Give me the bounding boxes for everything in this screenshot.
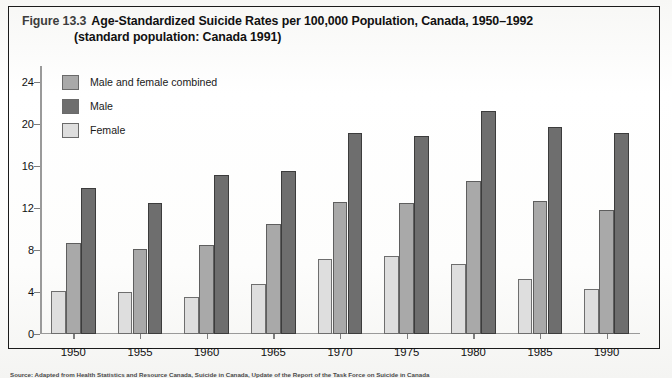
x-tick-label-1985: 1985 [510,346,570,358]
bar-female-1960 [184,297,199,334]
x-tick-1985 [540,334,541,339]
bar-male-1985 [548,127,563,334]
bar-combined-1960 [199,245,214,334]
x-tick-label-1955: 1955 [110,346,170,358]
bar-male-1975 [414,136,429,334]
y-tick-label-20: 20 [8,118,34,130]
source-note: Source: Adapted from Health Statistics a… [10,371,660,378]
x-tick-label-1990: 1990 [577,346,637,358]
y-axis-labels: 04812162024 [4,66,34,334]
y-tick-20 [34,124,40,125]
x-tick-label-1965: 1965 [243,346,303,358]
y-tick-4 [34,292,40,293]
x-tick-1975 [407,334,408,339]
x-tick-1950 [73,334,74,339]
bar-combined-1965 [266,224,281,334]
x-tick-1960 [207,334,208,339]
x-tick-1990 [607,334,608,339]
bar-combined-1970 [333,202,348,334]
bar-female-1965 [251,284,266,334]
bar-combined-1950 [66,243,81,334]
x-tick-1965 [273,334,274,339]
bar-male-1980 [481,111,496,334]
x-tick-label-1960: 1960 [177,346,237,358]
bar-female-1975 [384,256,399,334]
bar-female-1990 [584,289,599,334]
x-tick-1955 [140,334,141,339]
bar-female-1970 [318,259,333,334]
bar-male-1955 [148,203,163,334]
bar-combined-1990 [599,210,614,334]
bar-female-1950 [51,291,66,334]
x-tick-1980 [473,334,474,339]
x-tick-label-1980: 1980 [443,346,503,358]
y-tick-label-4: 4 [8,286,34,298]
y-tick-label-0: 0 [8,328,34,340]
bar-combined-1975 [399,203,414,334]
figure-number: Figure 13.3 [22,14,86,28]
bar-male-1965 [281,171,296,334]
y-tick-0 [34,334,40,335]
y-tick-label-24: 24 [8,76,34,88]
y-tick-label-8: 8 [8,244,34,256]
y-tick-8 [34,250,40,251]
y-tick-label-16: 16 [8,160,34,172]
x-tick-label-1975: 1975 [377,346,437,358]
bar-combined-1980 [466,181,481,334]
y-tick-16 [34,166,40,167]
bar-female-1980 [451,264,466,334]
bar-male-1950 [81,188,96,334]
bar-combined-1955 [133,249,148,334]
figure-title-line-2: (standard population: Canada 1991) [74,30,642,46]
y-axis-line [40,66,42,334]
y-tick-24 [34,82,40,83]
y-tick-12 [34,208,40,209]
bar-male-1990 [614,133,629,334]
y-tick-label-12: 12 [8,202,34,214]
figure-title-line-1: Age-Standardized Suicide Rates per 100,0… [91,14,533,28]
bar-male-1970 [348,133,363,334]
x-tick-1970 [340,334,341,339]
bar-combined-1985 [533,201,548,334]
figure-title: Figure 13.3Age-Standardized Suicide Rate… [22,14,642,45]
bar-male-1960 [214,175,229,334]
chart-plot-area: 04812162024 1950195519601965197019751980… [40,66,640,334]
x-tick-label-1970: 1970 [310,346,370,358]
bar-female-1955 [118,292,133,334]
bar-female-1985 [518,279,533,334]
x-tick-label-1950: 1950 [43,346,103,358]
